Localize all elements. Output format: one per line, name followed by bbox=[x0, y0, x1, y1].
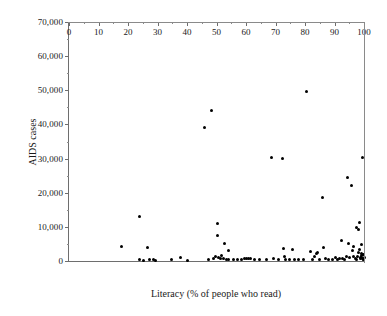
data-point bbox=[138, 215, 141, 218]
data-point bbox=[146, 246, 149, 249]
y-tick-major bbox=[65, 261, 69, 262]
data-point bbox=[154, 259, 157, 262]
data-point bbox=[313, 255, 316, 258]
data-point bbox=[346, 176, 349, 179]
data-point bbox=[355, 258, 358, 261]
data-point bbox=[309, 250, 312, 253]
x-tick-label: 0 bbox=[67, 28, 72, 37]
data-point bbox=[293, 258, 296, 261]
data-point bbox=[138, 258, 141, 261]
data-point bbox=[327, 258, 330, 261]
data-point bbox=[311, 258, 314, 261]
y-tick-label: 40,000 bbox=[38, 120, 63, 129]
plot-area: 010,00020,00030,00040,00050,00060,00070,… bbox=[68, 22, 364, 262]
data-point bbox=[351, 249, 354, 252]
data-point bbox=[277, 258, 280, 261]
data-point bbox=[360, 243, 363, 246]
x-tick-label: 70 bbox=[271, 28, 280, 37]
data-point bbox=[357, 228, 360, 231]
y-tick-minor bbox=[67, 39, 69, 40]
y-tick-label: 70,000 bbox=[38, 18, 63, 27]
data-point bbox=[258, 258, 261, 261]
data-point bbox=[232, 258, 235, 261]
data-point bbox=[253, 258, 256, 261]
y-tick-major bbox=[65, 124, 69, 125]
data-point bbox=[343, 258, 346, 261]
data-point bbox=[270, 156, 273, 159]
data-point bbox=[272, 257, 275, 260]
data-point bbox=[348, 256, 351, 259]
data-point bbox=[148, 258, 151, 261]
data-point bbox=[265, 258, 268, 261]
y-tick-minor bbox=[67, 142, 69, 143]
data-point bbox=[358, 248, 361, 251]
data-point bbox=[120, 245, 123, 248]
y-tick-minor bbox=[67, 210, 69, 211]
y-tick-major bbox=[65, 193, 69, 194]
data-point bbox=[210, 109, 213, 112]
data-point bbox=[216, 222, 219, 225]
data-point bbox=[282, 247, 285, 250]
x-tick-label: 20 bbox=[124, 28, 133, 37]
data-point bbox=[347, 242, 350, 245]
data-point bbox=[284, 258, 287, 261]
data-point bbox=[318, 258, 321, 261]
data-point bbox=[288, 258, 291, 261]
data-point bbox=[316, 251, 319, 254]
plot-frame-right bbox=[364, 22, 365, 263]
data-point bbox=[216, 234, 219, 237]
data-point bbox=[281, 157, 284, 160]
data-point bbox=[321, 196, 324, 199]
y-tick-major bbox=[65, 227, 69, 228]
x-tick-label: 80 bbox=[301, 28, 310, 37]
y-axis-title: AIDS cases bbox=[26, 22, 40, 262]
data-point bbox=[358, 221, 361, 224]
y-tick-minor bbox=[67, 244, 69, 245]
y-tick-minor bbox=[67, 107, 69, 108]
data-point bbox=[179, 256, 182, 259]
plot-frame-top bbox=[68, 22, 365, 23]
data-point bbox=[236, 258, 239, 261]
data-point bbox=[322, 246, 325, 249]
y-tick-label: 60,000 bbox=[38, 52, 63, 61]
data-point bbox=[227, 258, 230, 261]
data-point bbox=[352, 245, 355, 248]
data-point bbox=[297, 258, 300, 261]
y-tick-minor bbox=[67, 176, 69, 177]
data-point bbox=[305, 90, 308, 93]
x-tick-label: 30 bbox=[153, 28, 162, 37]
data-point bbox=[350, 184, 353, 187]
data-point bbox=[227, 249, 230, 252]
y-tick-label: 50,000 bbox=[38, 86, 63, 95]
y-tick-label: 20,000 bbox=[38, 188, 63, 197]
y-tick-label: 30,000 bbox=[38, 154, 63, 163]
data-point bbox=[331, 258, 334, 261]
y-tick-minor bbox=[67, 73, 69, 74]
data-point bbox=[203, 126, 206, 129]
x-axis-title: Literacy (% of people who read) bbox=[68, 288, 364, 299]
x-tick-label: 10 bbox=[94, 28, 103, 37]
scatter-plot-figure: 010,00020,00030,00040,00050,00060,00070,… bbox=[0, 0, 387, 316]
data-point bbox=[340, 239, 343, 242]
x-tick-label: 60 bbox=[242, 28, 251, 37]
y-tick-label: 0 bbox=[58, 257, 63, 266]
y-tick-major bbox=[65, 159, 69, 160]
data-point bbox=[223, 242, 226, 245]
data-point bbox=[249, 257, 252, 260]
data-point bbox=[207, 258, 210, 261]
y-tick-label: 10,000 bbox=[38, 222, 63, 231]
x-tick-label: 90 bbox=[330, 28, 339, 37]
x-tick-label: 40 bbox=[183, 28, 192, 37]
data-point bbox=[291, 248, 294, 251]
x-tick-label: 50 bbox=[212, 28, 221, 37]
y-tick-major bbox=[65, 90, 69, 91]
data-point bbox=[186, 259, 189, 262]
data-point bbox=[214, 255, 217, 258]
data-point bbox=[142, 259, 145, 262]
y-tick-major bbox=[65, 56, 69, 57]
data-point bbox=[170, 258, 173, 261]
data-point bbox=[302, 258, 305, 261]
